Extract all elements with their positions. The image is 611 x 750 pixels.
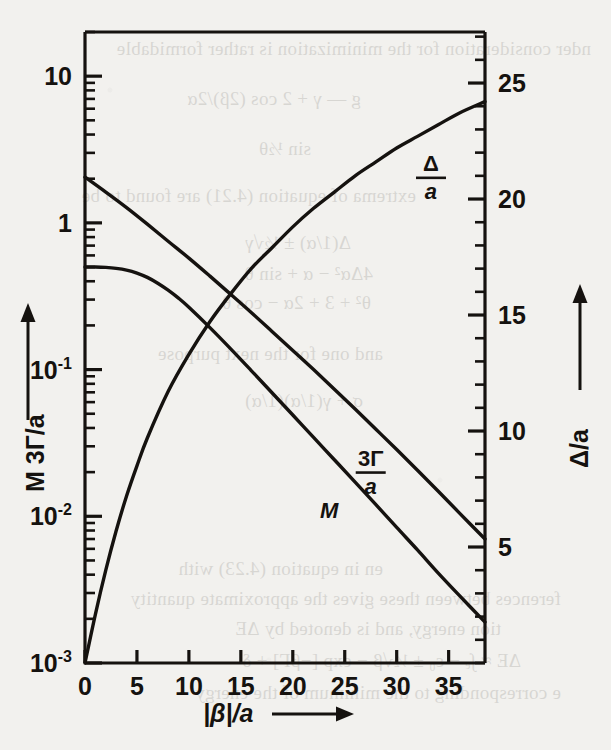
x-axis-tick-labels: 05101520253035 (78, 672, 463, 700)
y-axis-right-tick-labels: 510152025 (498, 69, 526, 561)
x-tick-label: 30 (383, 672, 411, 700)
svg-text:M 3Γ/a: M 3Γ/a (21, 413, 49, 492)
y-axis-right-ticks (468, 37, 485, 663)
x-tick-label: 25 (331, 672, 359, 700)
curve-label-M: M (320, 498, 339, 523)
curve-label-a: Δa (416, 151, 446, 204)
curve-label-a: 3Γa (356, 446, 386, 499)
y-right-tick-label: 10 (498, 417, 526, 445)
svg-text:Δ/a: Δ/a (565, 428, 593, 468)
svg-text:3Γ: 3Γ (358, 446, 383, 471)
x-axis-title: |β|/a (203, 699, 354, 727)
x-tick-label: 5 (130, 672, 144, 700)
x-tick-label: 20 (279, 672, 307, 700)
y-left-tick-label: 10-3 (30, 648, 72, 677)
svg-text:|β|/a: |β|/a (203, 699, 253, 727)
y-right-tick-label: 15 (498, 301, 526, 329)
svg-text:a: a (425, 179, 437, 204)
x-tick-label: 15 (227, 672, 255, 700)
y-right-tick-label: 20 (498, 185, 526, 213)
y-left-tick-label: 1 (58, 209, 72, 237)
svg-text:a: a (365, 474, 377, 499)
curve-a (85, 177, 485, 539)
x-tick-label: 35 (435, 672, 463, 700)
x-tick-label: 10 (175, 672, 203, 700)
svg-text:Δ: Δ (423, 151, 439, 176)
x-tick-label: 0 (78, 672, 92, 700)
y-left-tick-label: 10-1 (30, 355, 72, 384)
y-axis-left-tick-labels: 10110-110-210-3 (30, 62, 72, 677)
y-right-tick-label: 5 (498, 533, 512, 561)
y-axis-right-title: Δ/a (565, 284, 593, 468)
plot-frame (85, 32, 485, 663)
y-left-tick-label: 10 (44, 62, 72, 90)
y-right-tick-label: 25 (498, 69, 526, 97)
y-left-tick-label: 10-2 (30, 501, 72, 530)
figure-plot: 10110-110-210-3 510152025 05101520253035… (0, 0, 611, 750)
y-axis-left-title: M 3Γ/a (21, 303, 50, 492)
x-axis-ticks (85, 650, 449, 663)
y-axis-left-ticks (85, 32, 102, 663)
